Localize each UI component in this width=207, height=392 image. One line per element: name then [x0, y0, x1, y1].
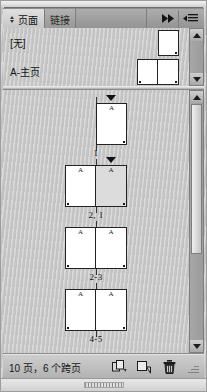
masters-scroll-up-icon[interactable] — [190, 29, 203, 41]
spread-item[interactable]: A 1 — [3, 103, 189, 158]
page-master-letter: A — [97, 105, 126, 112]
new-page-button[interactable] — [136, 359, 152, 375]
page-corner-marker — [123, 141, 125, 143]
tab-bar-filler — [76, 9, 147, 28]
pages-scroll-down-icon[interactable] — [190, 340, 203, 352]
footer-button-group — [111, 359, 204, 375]
spread-thumbnails: A A — [65, 165, 127, 207]
pages-scroll-up-icon[interactable] — [190, 91, 203, 103]
page-corner-marker — [175, 81, 177, 83]
page-corner-marker — [123, 327, 125, 329]
panel-resize-grip[interactable] — [84, 382, 124, 388]
page-thumbnail-selected[interactable]: A — [96, 165, 127, 207]
panel-drag-grip-icon — [8, 16, 16, 23]
page-master-letter: A — [66, 229, 95, 236]
page-thumbnail[interactable]: A — [96, 289, 127, 331]
pages-panel-footer: 10 页，6 个跨页 — [3, 356, 204, 378]
master-thumbnail-page-left[interactable] — [137, 59, 158, 85]
page-corner-marker — [67, 265, 69, 267]
master-pages-list[interactable]: [无] A-主页 — [3, 28, 204, 86]
spread-item[interactable]: A A 2-3 — [3, 227, 189, 282]
page-master-letter: A — [96, 291, 126, 298]
master-pages-list-inner: [无] A-主页 — [3, 28, 189, 86]
page-master-letter: A — [66, 167, 95, 174]
tab-links[interactable]: 链接 — [45, 9, 77, 29]
spread-item[interactable]: A A 4-5 — [3, 289, 189, 344]
page-count-status: 10 页，6 个跨页 — [3, 360, 81, 375]
tab-pages[interactable]: 页面 — [3, 9, 45, 29]
masters-scrollbar-track[interactable] — [190, 41, 203, 73]
tab-bar-tools — [147, 9, 204, 28]
page-corner-marker — [67, 327, 69, 329]
pages-list[interactable]: A 1 A A 2, 1 — [3, 90, 189, 353]
pages-panel: 页面 链接 — [0, 0, 207, 392]
page-thumbnail[interactable]: A — [96, 227, 127, 269]
spread-selection-marker-icon — [106, 95, 116, 101]
page-corner-marker — [123, 203, 125, 205]
page-master-letter: A — [96, 167, 126, 174]
tab-pages-label: 页面 — [18, 12, 39, 27]
master-thumbnail-page[interactable] — [158, 30, 179, 56]
panel-tab-bar: 页面 链接 — [3, 8, 204, 28]
page-thumbnail[interactable]: A — [65, 289, 96, 331]
spread-thumbnails: A — [65, 103, 127, 145]
new-spread-button[interactable] — [111, 359, 127, 375]
resize-grip-icon[interactable] — [188, 362, 199, 373]
master-item-a-master[interactable]: A-主页 — [3, 57, 189, 86]
panel-menu-icon[interactable] — [178, 10, 201, 28]
page-thumbnail[interactable]: A — [65, 165, 96, 207]
master-item-a-master-thumbnails — [137, 59, 189, 85]
spread-thumbnails: A A — [65, 227, 127, 269]
page-master-letter: A — [66, 291, 95, 298]
pages-scrollbar[interactable] — [189, 90, 204, 353]
page-thumbnail[interactable]: A — [96, 103, 127, 145]
panel-top-bevel — [0, 0, 207, 7]
master-item-none-label: [无] — [3, 35, 158, 50]
page-thumbnail[interactable]: A — [65, 227, 96, 269]
spread-selection-marker-icon — [106, 157, 116, 163]
master-item-a-master-label: A-主页 — [3, 64, 137, 79]
tab-links-label: 链接 — [50, 12, 71, 27]
page-corner-marker — [123, 265, 125, 267]
page-corner-marker — [175, 52, 177, 54]
master-item-none-thumbnails — [158, 30, 189, 56]
masters-scroll-down-icon[interactable] — [190, 73, 203, 85]
spread-thumbnails: A A — [65, 289, 127, 331]
double-chevron-right-icon[interactable] — [158, 10, 178, 28]
masters-scrollbar[interactable] — [189, 28, 204, 86]
page-corner-marker — [139, 81, 141, 83]
page-master-letter: A — [96, 229, 126, 236]
master-thumbnail-page-right[interactable] — [158, 59, 179, 85]
spread-item[interactable]: A A 2, 1 — [3, 165, 189, 220]
page-corner-marker — [67, 203, 69, 205]
master-item-none[interactable]: [无] — [3, 28, 189, 57]
delete-page-button[interactable] — [161, 359, 177, 375]
pages-scrollbar-thumb[interactable] — [191, 104, 202, 254]
